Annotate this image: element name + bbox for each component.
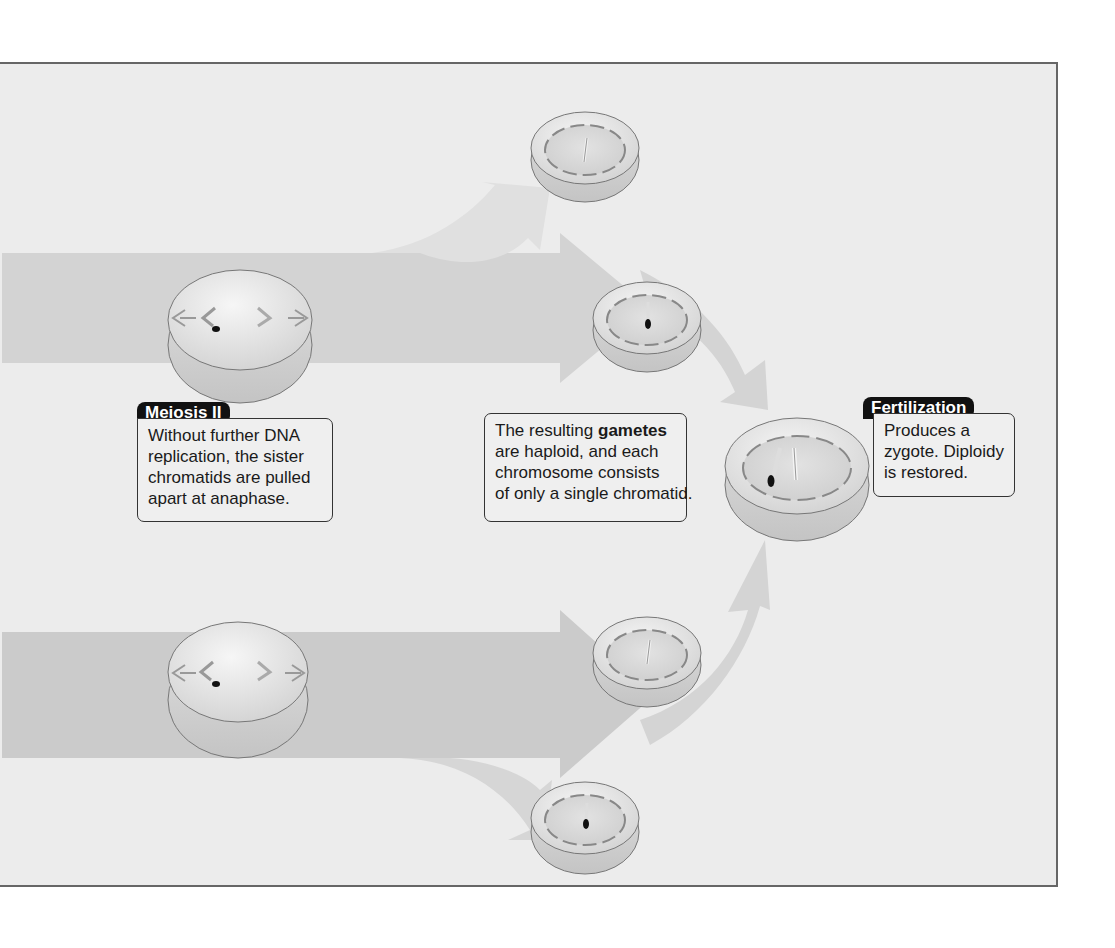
fertilization-line-3: is restored.	[884, 462, 1006, 483]
meiosis2-cell-top	[168, 270, 312, 403]
meiosis2-line-3: chromatids are pulled	[148, 467, 324, 488]
gamete-4	[531, 782, 639, 874]
meiosis2-line-1: Without further DNA	[148, 425, 324, 446]
meiosis2-cell-bottom	[168, 622, 308, 758]
gamete-3	[593, 617, 701, 707]
meiosis2-line-4: apart at anaphase.	[148, 488, 324, 509]
fertilization-line-2: zygote. Diploidy	[884, 441, 1006, 462]
gamete-2	[593, 282, 701, 372]
gametes-description: The resulting gametes are haploid, and e…	[484, 413, 687, 522]
top-horizontal-arrow	[2, 182, 650, 383]
gametes-line-2: are haploid, and each	[495, 441, 678, 462]
gamete-1	[531, 112, 639, 202]
gametes-line-1: The resulting gametes	[495, 420, 678, 441]
meiosis2-line-2: replication, the sister	[148, 446, 324, 467]
gametes-line-4: of only a single chromatid.	[495, 483, 678, 504]
gametes-line-3: chromosome consists	[495, 462, 678, 483]
fertilization-line-1: Produces a	[884, 420, 1006, 441]
gametes-term: gametes	[598, 421, 667, 440]
meiosis2-description: Without further DNA replication, the sis…	[137, 418, 333, 522]
zygote	[725, 418, 869, 541]
fertilization-description: Produces a zygote. Diploidy is restored.	[873, 413, 1015, 497]
